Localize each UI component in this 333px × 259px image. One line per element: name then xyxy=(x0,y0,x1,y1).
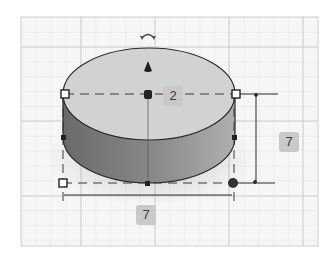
handle-top-left[interactable] xyxy=(61,90,69,98)
handle-bottom-right[interactable] xyxy=(228,178,238,188)
elevation-label[interactable]: 2 xyxy=(163,86,183,106)
handle-bottom-left[interactable] xyxy=(59,179,67,187)
handle-mid-right[interactable] xyxy=(232,135,237,140)
height-label[interactable]: 7 xyxy=(279,132,299,152)
handle-center-elevation[interactable] xyxy=(144,90,152,99)
width-label[interactable]: 7 xyxy=(136,205,156,225)
handle-top-right[interactable] xyxy=(232,90,240,98)
workplane-canvas[interactable] xyxy=(0,0,333,259)
handle-bottom-center[interactable] xyxy=(145,181,150,186)
handle-mid-left[interactable] xyxy=(61,135,66,140)
